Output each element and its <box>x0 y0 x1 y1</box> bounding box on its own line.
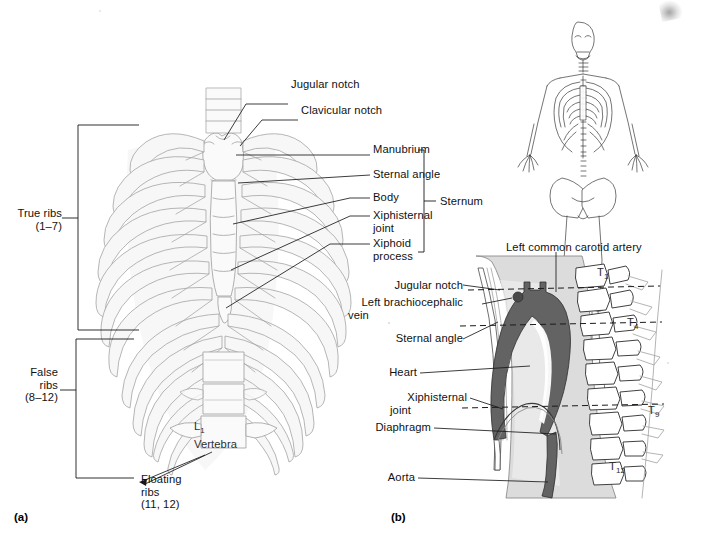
callout-aorta: Aorta <box>330 471 415 484</box>
panel-b-identifier: (b) <box>391 511 406 523</box>
anatomy-figure: .bo{fill:none;stroke:#a6a6a6;stroke-widt… <box>0 0 701 545</box>
callout-left-common-carotid-artery: Left common carotid artery <box>506 241 642 254</box>
label-vertebra-t1: T1 <box>597 266 608 284</box>
callout-left-brachiocephalic-vein: Left brachiocephalicvein <box>272 296 463 321</box>
callout-xiphoid-process: Xiphoidprocess <box>373 237 413 262</box>
false-ribs-line2: ribs <box>40 379 58 391</box>
bracket-label-false-ribs: Falseribs(8–12) <box>0 366 58 404</box>
false-ribs-line3: (8–12) <box>25 391 58 403</box>
callout-xiphisternal-joint-a: Xiphisternaljoint <box>373 209 433 234</box>
label-l1-vertebra: L1Vertebra <box>194 420 237 450</box>
false-ribs-line1: False <box>30 366 58 378</box>
callout-body: Body <box>373 191 399 204</box>
true-ribs-line2: (1–7) <box>35 220 62 232</box>
callout-sternal-angle-a: Sternal angle <box>373 168 440 181</box>
bracket-label-sternum: Sternum <box>440 195 483 208</box>
callout-xiphisternal-joint-b: Xiphisternaljoint <box>330 391 467 416</box>
true-ribs-line1: True ribs <box>17 207 62 219</box>
left-brachiocephalic-vein-shape <box>513 292 523 302</box>
label-vertebra-t12: T12 <box>609 460 625 478</box>
label-vertebra-t9: T9 <box>648 404 659 422</box>
callout-clavicular-notch: Clavicular notch <box>301 104 382 117</box>
callout-heart: Heart <box>330 366 417 379</box>
label-vertebra-t4: T4 <box>627 316 638 334</box>
callout-jugular-notch-a: Jugular notch <box>291 78 359 91</box>
bracket-label-true-ribs: True ribs(1–7) <box>0 207 62 232</box>
callout-floating-ribs: Floatingribs(11, 12) <box>141 473 182 511</box>
callout-sternal-angle-b: Sternal angle <box>330 332 463 345</box>
callout-manubrium: Manubrium <box>373 143 430 156</box>
callout-jugular-notch-b: Jugular notch <box>330 279 463 292</box>
callout-diaphragm: Diaphragm <box>330 421 431 434</box>
panel-a-identifier: (a) <box>14 511 28 523</box>
